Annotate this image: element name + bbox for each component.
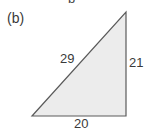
panel-label: (b) <box>7 12 24 25</box>
horizontal-side-label: 20 <box>74 117 88 130</box>
vertical-side-label: 21 <box>129 56 143 69</box>
right-triangle <box>32 12 126 116</box>
hypotenuse-label: 29 <box>60 52 74 65</box>
